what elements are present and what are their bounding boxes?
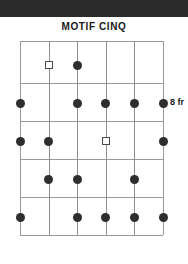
string-line-5 — [134, 41, 135, 235]
fretboard-grid — [20, 41, 163, 235]
fret-line-1 — [20, 83, 163, 84]
note-dot-s6-f5 — [159, 213, 168, 222]
page-title: MOTIF CINQ — [0, 21, 188, 32]
note-dot-s6-f2 — [159, 99, 168, 108]
root-marker-s4-f3 — [102, 137, 110, 145]
note-dot-s1-f5 — [16, 213, 25, 222]
fret-line-0 — [20, 41, 163, 42]
fret-line-3 — [20, 159, 163, 160]
note-dot-s3-f5 — [73, 213, 82, 222]
note-dot-s3-f4 — [73, 175, 82, 184]
page-top-band — [0, 0, 188, 17]
diagram-page: MOTIF CINQ 8 fr — [0, 0, 188, 264]
note-dot-s1-f3 — [16, 137, 25, 146]
note-dot-s4-f2 — [101, 99, 110, 108]
note-dot-s2-f3 — [44, 137, 53, 146]
fret-line-5 — [20, 235, 163, 236]
note-dot-s2-f4 — [44, 175, 53, 184]
fret-position-label: 8 fr — [170, 97, 184, 107]
root-marker-s2-f1 — [45, 61, 53, 69]
note-dot-s4-f5 — [101, 213, 110, 222]
note-dot-s3-f1 — [73, 61, 82, 70]
note-dot-s5-f4 — [130, 175, 139, 184]
fret-line-4 — [20, 197, 163, 198]
note-dot-s1-f2 — [16, 99, 25, 108]
note-dot-s5-f2 — [130, 99, 139, 108]
note-dot-s6-f3 — [159, 137, 168, 146]
fret-line-2 — [20, 121, 163, 122]
string-line-3 — [77, 41, 78, 235]
note-dot-s5-f5 — [130, 213, 139, 222]
note-dot-s3-f2 — [73, 99, 82, 108]
